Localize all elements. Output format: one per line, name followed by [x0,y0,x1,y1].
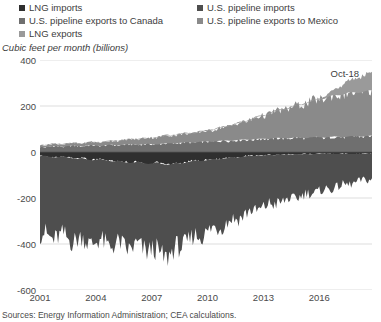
legend-label: U.S. pipeline imports [207,2,295,13]
legend-item-pipeline-exports-mexico[interactable]: U.S. pipeline exports to Mexico [197,15,338,26]
plot-area [40,60,372,290]
stacked-area-chart [40,60,372,290]
y-axis-tick-label: 0 [2,147,36,158]
y-axis-tick-label: 200 [2,101,36,112]
data-annotation-oct18: Oct-18 [331,68,360,79]
area-series [40,154,372,266]
x-axis-tick-label: 2013 [253,292,274,303]
source-note: Sources: Energy Information Administrati… [2,310,236,320]
legend-item-lng-exports[interactable]: LNG exports [19,28,82,39]
y-axis-tick-labels: 4002000-200-400-600 [0,60,36,290]
chart-figure: LNG imports U.S. pipeline exports to Can… [0,0,381,322]
y-axis-tick-label: 400 [2,55,36,66]
x-axis-tick-label: 2010 [197,292,218,303]
x-axis-tick-label: 2016 [309,292,330,303]
legend-swatch-icon [197,18,203,24]
legend-swatch-icon [19,18,25,24]
legend-label: LNG imports [29,2,82,13]
y-axis-title: Cubic feet per month (billions) [2,42,128,53]
x-axis-tick-label: 2001 [29,292,50,303]
legend-swatch-icon [19,31,25,37]
x-axis-tick-labels: 200120042007201020132016 [40,292,372,306]
legend-item-pipeline-exports-canada[interactable]: U.S. pipeline exports to Canada [19,15,163,26]
chart-legend: LNG imports U.S. pipeline exports to Can… [0,0,381,40]
legend-swatch-icon [197,5,203,11]
legend-label: U.S. pipeline exports to Mexico [207,15,338,26]
x-axis-tick-label: 2007 [141,292,162,303]
legend-swatch-icon [19,5,25,11]
legend-label: LNG exports [29,28,82,39]
legend-item-pipeline-imports[interactable]: U.S. pipeline imports [197,2,295,13]
y-axis-tick-label: -200 [2,193,36,204]
x-axis-tick-label: 2004 [85,292,106,303]
legend-item-lng-imports[interactable]: LNG imports [19,2,82,13]
legend-label: U.S. pipeline exports to Canada [29,15,163,26]
y-axis-tick-label: -400 [2,239,36,250]
